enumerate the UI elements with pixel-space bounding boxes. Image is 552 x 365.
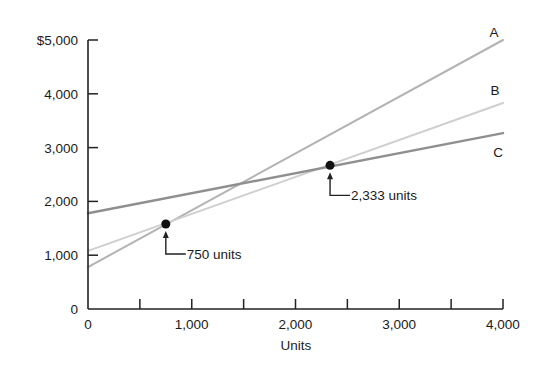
y-tick-label: 4,000: [44, 87, 78, 102]
annotation-2: 2,333 units: [326, 161, 418, 204]
x-tick-label: 3,000: [382, 317, 416, 332]
y-tick-label: 2,000: [44, 194, 78, 209]
annotation-1: 750 units: [161, 219, 242, 262]
line-b: [88, 103, 503, 251]
axes: [88, 40, 503, 309]
series-lines: [88, 40, 503, 267]
arrow-up-icon: [163, 231, 169, 238]
x-tick-label: 4,000: [486, 317, 520, 332]
annotation-label: 750 units: [187, 247, 242, 262]
x-tick-label: 2,000: [279, 317, 313, 332]
y-tick-label: $5,000: [37, 33, 78, 48]
breakeven-point-marker: [161, 219, 170, 228]
line-a: [88, 40, 503, 267]
leader-line: [330, 177, 350, 195]
x-tick-label: 1,000: [175, 317, 209, 332]
y-axis-ticks: 01,0002,0003,0004,000$5,000: [37, 33, 98, 317]
x-tick-label: 0: [84, 317, 92, 332]
series-label-b: B: [490, 83, 499, 98]
line-c: [88, 133, 503, 213]
y-tick-label: 0: [70, 302, 78, 317]
leader-line: [166, 236, 186, 254]
x-axis-ticks: 01,0002,0003,0004,000: [84, 299, 520, 332]
y-tick-label: 1,000: [44, 248, 78, 263]
arrow-up-icon: [327, 172, 333, 179]
cost-volume-chart: 01,0002,0003,0004,000$5,000 01,0002,0003…: [0, 0, 552, 365]
breakeven-point-marker: [326, 161, 335, 170]
y-tick-label: 3,000: [44, 141, 78, 156]
annotation-label: 2,333 units: [351, 188, 417, 203]
x-axis-title: Units: [281, 338, 312, 353]
series-label-a: A: [489, 25, 498, 40]
series-label-c: C: [493, 145, 503, 160]
